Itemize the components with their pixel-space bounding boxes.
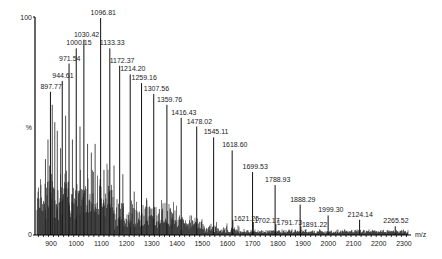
- x-tick-label: 1500: [194, 240, 210, 247]
- x-tick-label: 1900: [295, 240, 311, 247]
- y-tick-label: %: [26, 124, 32, 131]
- peak-label: 1307.56: [144, 85, 169, 92]
- mass-spectrum-chart: 897.77944.61971.541000.151030.421096.811…: [0, 0, 442, 259]
- peak-label: 1000.15: [66, 39, 91, 46]
- y-tick-label: 0: [28, 231, 32, 238]
- x-tick-label: 1100: [94, 240, 109, 247]
- x-tick-label: 1000: [68, 240, 84, 247]
- peak-label: 2124.14: [348, 211, 373, 218]
- peak-label: 944.61: [52, 72, 74, 79]
- peak-label: 897.77: [40, 83, 62, 90]
- peak-label: 1999.30: [318, 206, 343, 213]
- x-tick-label: 900: [45, 240, 57, 247]
- peak-label: 1416.43: [171, 109, 196, 116]
- peak-label: 1259.16: [132, 74, 157, 81]
- peak-label: 1699.53: [243, 163, 268, 170]
- peak-label: 1359.76: [157, 96, 182, 103]
- x-tick-label: 2100: [346, 240, 362, 247]
- peak-label: 1888.29: [290, 196, 315, 203]
- peak-label: 1618.60: [222, 141, 247, 148]
- peak-label: 1030.42: [74, 31, 99, 38]
- x-tick-label: 1600: [220, 240, 236, 247]
- peak-label: 1172.37: [110, 57, 135, 64]
- x-tick-label: 2200: [371, 240, 387, 247]
- x-tick-label: 1200: [119, 240, 135, 247]
- x-tick-label: 1400: [169, 240, 185, 247]
- peak-label: 1478.02: [187, 118, 212, 125]
- peak-lines: [50, 18, 395, 235]
- x-axis-label: m/z: [415, 231, 427, 238]
- x-tick-label: 1800: [270, 240, 286, 247]
- peak-label: 2265.52: [383, 217, 408, 224]
- peak-label: 1791.73: [277, 219, 302, 226]
- peak-label: 1891.22: [302, 221, 327, 228]
- x-tick-label: 1300: [144, 240, 160, 247]
- peak-label: 1096.81: [91, 9, 116, 16]
- peak-label: 1788.93: [265, 176, 290, 183]
- y-tick-label: 100: [20, 14, 32, 21]
- x-tick-label: 1700: [245, 240, 261, 247]
- peak-label: 1545.11: [204, 128, 229, 135]
- chart-canvas: 897.77944.61971.541000.151030.421096.811…: [0, 0, 442, 259]
- peak-label: 1214.20: [120, 65, 145, 72]
- peak-label: 1133.33: [100, 39, 125, 46]
- x-tick-label: 2000: [321, 240, 337, 247]
- peak-label: 971.54: [59, 55, 81, 62]
- x-tick-label: 2300: [396, 240, 412, 247]
- peak-labels: 897.77944.61971.541000.151030.421096.811…: [40, 9, 408, 228]
